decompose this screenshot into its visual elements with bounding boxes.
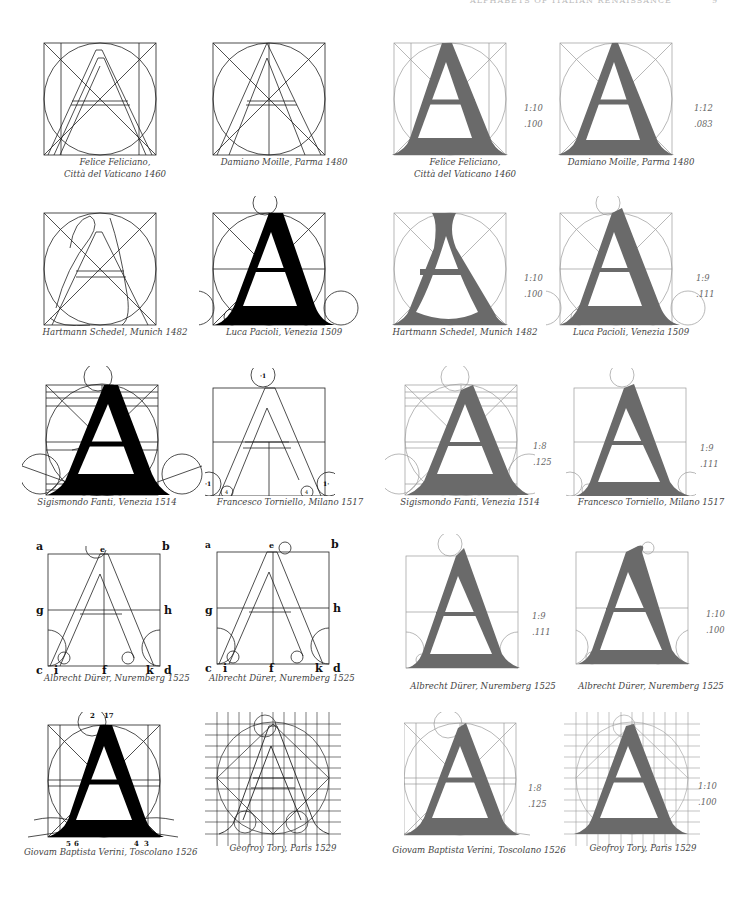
figure-tory-outline: Geofroy Tory, Paris 1529 (205, 710, 375, 854)
svg-text:·1: ·1 (260, 372, 266, 379)
letter-a-construction-outline: a e b g h c i f k d (36, 534, 176, 674)
proportion-ratio: 1:10 .100 (524, 100, 543, 132)
letter-a-construction-outline (30, 38, 200, 156)
figure-torniello-outline: ·1 ·1 1· 4 4 Francesco Torniello, Milano… (205, 368, 375, 508)
svg-text:h: h (164, 604, 172, 617)
figure-schedel-shaded: Hartmann Schedel, Munich 1482 1:10 .100 (380, 208, 550, 338)
figure-caption: Felice Feliciano, Città del Vaticano 146… (380, 156, 550, 180)
svg-text:b: b (162, 540, 170, 553)
svg-text:4: 4 (305, 489, 308, 495)
figure-tory-shaded: Geofroy Tory, Paris 1529 1:10 .100 (564, 710, 734, 854)
proportion-ratio: 1:10 .100 (524, 270, 543, 302)
figure-caption: Albrecht Dürer, Nuremberg 1525 (205, 672, 375, 684)
svg-text:b: b (331, 538, 339, 551)
svg-text:h: h (333, 602, 341, 615)
letter-a-shaded (566, 534, 706, 670)
svg-text:e: e (269, 540, 274, 550)
figure-feliciano-outline: Felice Feliciano, Città del Vaticano 146… (30, 38, 200, 180)
figure-pacioli-solid: Luca Pacioli, Venezia 1509 (199, 196, 369, 338)
figure-caption: Francesco Torniello, Milano 1517 (205, 496, 375, 508)
letter-a-shaded (404, 712, 534, 846)
figure-caption: Damiano Moille, Parma 1480 (546, 156, 716, 168)
figure-caption: Francesco Torniello, Milano 1517 (566, 496, 736, 508)
figure-caption: Albrecht Dürer, Nuremberg 1525 (398, 680, 568, 692)
letter-a-shaded (546, 196, 716, 326)
letter-a-shaded (380, 38, 550, 156)
figure-feliciano-shaded: Felice Feliciano, Città del Vaticano 146… (380, 38, 550, 180)
figure-caption: Luca Pacioli, Venezia 1509 (199, 326, 369, 338)
letter-a-construction-solid (199, 196, 369, 326)
letter-a-construction-outline: ·1 ·1 1· 4 4 (205, 368, 335, 496)
running-head: ALPHABETS OF ITALIAN RENAISSANCE (470, 0, 672, 5)
svg-text:e: e (100, 544, 105, 554)
figure-durer-shaded-2: Albrecht Dürer, Nuremberg 1525 1:10 .100 (566, 534, 736, 692)
letter-a-shaded (566, 368, 696, 496)
figure-caption: Sigismondo Fanti, Venezia 1514 (22, 496, 192, 508)
letter-a-shaded (564, 710, 704, 850)
page-number: 9 (712, 0, 717, 5)
letter-a-shaded (546, 38, 716, 156)
proportion-ratio: 1:9 .111 (700, 440, 719, 472)
figure-durer-shaded-1: Albrecht Dürer, Nuremberg 1525 1:9 .111 (398, 534, 568, 692)
svg-text:a: a (36, 540, 43, 553)
svg-text:c: c (36, 664, 43, 674)
letter-a-shaded (398, 534, 538, 670)
figure-moille-shaded: Damiano Moille, Parma 1480 1:12 .083 (546, 38, 716, 168)
proportion-ratio: 1:9 .111 (696, 270, 715, 302)
figure-torniello-shaded: Francesco Torniello, Milano 1517 1:9 .11… (566, 368, 736, 508)
figure-caption: Giovam Baptista Verini, Toscolano 1526 (24, 846, 198, 858)
svg-text:2: 2 (90, 712, 95, 720)
letter-a-construction-outline (30, 208, 200, 326)
figure-caption: Sigismondo Fanti, Venezia 1514 (385, 496, 555, 508)
figure-schedel-outline: Hartmann Schedel, Munich 1482 (30, 208, 200, 338)
proportion-ratio: 1:10 .100 (698, 778, 717, 810)
figure-fanti-shaded: Sigismondo Fanti, Venezia 1514 1:8 .125 (385, 366, 555, 508)
proportion-ratio: 1:8 .125 (528, 780, 547, 812)
figure-caption: Albrecht Dürer, Nuremberg 1525 (36, 672, 206, 684)
svg-text:g: g (205, 604, 213, 617)
svg-text:4: 4 (225, 489, 228, 495)
figure-verini-shaded: Giovam Baptista Verini, Toscolano 1526 1… (404, 712, 574, 856)
figure-caption: Albrecht Dürer, Nuremberg 1525 (566, 680, 736, 692)
running-header: ALPHABETS OF ITALIAN RENAISSANCE 9 (470, 0, 747, 6)
svg-text:a: a (205, 540, 211, 550)
figure-moille-outline: Damiano Moille, Parma 1480 (199, 38, 369, 168)
letter-a-construction-outline (199, 38, 369, 156)
figure-caption: Hartmann Schedel, Munich 1482 (30, 326, 200, 338)
svg-text:·1: ·1 (205, 480, 211, 487)
letter-a-construction-solid (22, 366, 207, 496)
figure-verini-solid: 2 17 5 6 4 3 Giovam Baptista Verini, Tos… (28, 712, 198, 858)
proportion-ratio: 1:12 .083 (694, 100, 713, 132)
svg-text:17: 17 (104, 712, 114, 720)
svg-text:1·: 1· (323, 480, 329, 487)
figure-pacioli-shaded: Luca Pacioli, Venezia 1509 1:9 .111 (546, 196, 716, 338)
figure-durer-outline-2: a e b g h c i f k d Albrecht Dürer, Nure… (205, 534, 375, 684)
proportion-ratio: 1:10 .100 (706, 606, 725, 638)
figure-caption: Geofroy Tory, Paris 1529 (552, 842, 734, 854)
figure-caption: Geofroy Tory, Paris 1529 (191, 842, 375, 854)
figure-caption: Giovam Baptista Verini, Toscolano 1526 (384, 844, 574, 856)
proportion-ratio: 1:9 .111 (532, 608, 551, 640)
letter-a-shaded (380, 208, 550, 326)
figure-caption: Hartmann Schedel, Munich 1482 (380, 326, 550, 338)
letter-a-construction-outline: a e b g h c i f k d (205, 534, 345, 674)
figure-fanti-solid: Sigismondo Fanti, Venezia 1514 (22, 366, 192, 508)
letter-a-shaded (385, 366, 535, 496)
proportion-ratio: 1:8 .125 (533, 438, 552, 470)
letter-a-construction-outline (205, 710, 345, 850)
letter-a-construction-solid: 2 17 5 6 4 3 (28, 712, 178, 848)
figure-durer-outline-1: a e b g h c i f k d Albrecht Dürer, Nure… (36, 534, 206, 684)
figure-caption: Luca Pacioli, Venezia 1509 (546, 326, 716, 338)
figure-caption: Damiano Moille, Parma 1480 (199, 156, 369, 168)
figure-caption: Felice Feliciano, Città del Vaticano 146… (30, 156, 200, 180)
svg-text:g: g (36, 604, 44, 617)
